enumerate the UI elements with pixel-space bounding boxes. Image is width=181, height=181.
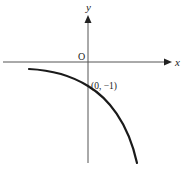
y-axis-label: y: [85, 1, 91, 13]
point-label: (0, −1): [91, 81, 117, 92]
figure-canvas: y x O (0, −1): [0, 0, 181, 181]
graph: y x O (0, −1): [0, 0, 181, 181]
y-axis-arrow-icon: [85, 15, 92, 23]
function-curve: [29, 69, 137, 163]
x-axis-arrow-icon: [164, 59, 172, 66]
origin-label: O: [78, 51, 85, 62]
x-axis-label: x: [174, 56, 180, 68]
